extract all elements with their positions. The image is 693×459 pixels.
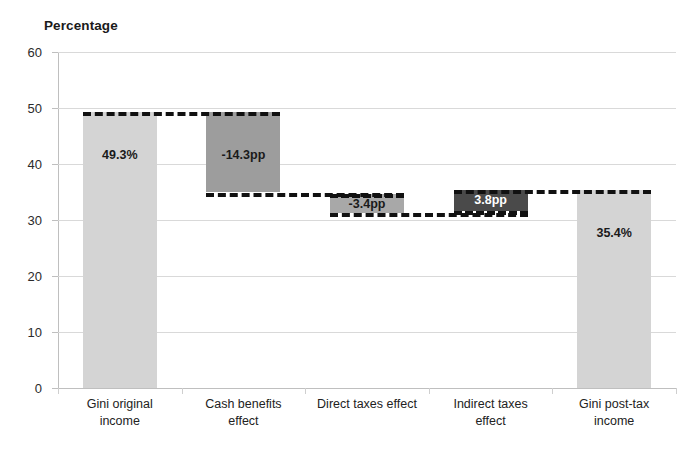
category-label-line: Cash benefits — [182, 396, 306, 413]
bar-label-cash-benefits-effect: -14.3pp — [188, 148, 298, 162]
category-label-1: Cash benefitseffect — [182, 396, 306, 430]
y-tick-label-30: 30 — [8, 213, 42, 228]
bar-label-gini-original-income: 49.3% — [65, 148, 175, 162]
category-label-line: income — [552, 413, 676, 430]
bar-label-gini-post-tax-income: 35.4% — [559, 226, 669, 240]
category-label-line: effect — [182, 413, 306, 430]
gridline-50 — [58, 108, 676, 109]
category-label-line: effect — [429, 413, 553, 430]
y-tick-label-10: 10 — [8, 325, 42, 340]
x-tick-mark-3 — [429, 388, 430, 394]
connector-35-4 — [454, 190, 652, 194]
category-label-line: Direct taxes effect — [305, 396, 429, 413]
x-tick-mark-4 — [552, 388, 553, 394]
waterfall-chart: Percentage 0102030405060 49.3%-14.3pp-3.… — [0, 0, 693, 459]
y-tick-label-60: 60 — [8, 45, 42, 60]
y-tick-label-40: 40 — [8, 157, 42, 172]
category-label-line: Gini post-tax — [552, 396, 676, 413]
y-axis-title: Percentage — [44, 18, 118, 33]
category-label-3: Indirect taxeseffect — [429, 396, 553, 430]
y-tick-label-50: 50 — [8, 101, 42, 116]
x-tick-mark-2 — [305, 388, 306, 394]
y-tick-label-20: 20 — [8, 269, 42, 284]
bar-label-indirect-taxes-effect: 3.8pp — [436, 193, 546, 207]
category-label-line: income — [58, 413, 182, 430]
x-axis-line — [58, 388, 676, 389]
category-label-line: Indirect taxes — [429, 396, 553, 413]
bar-gini-post-tax-income — [577, 190, 651, 388]
bar-label-direct-taxes-effect: -3.4pp — [312, 197, 422, 211]
x-tick-mark-5 — [676, 388, 677, 394]
category-label-2: Direct taxes effect — [305, 396, 429, 413]
gridline-60 — [58, 52, 676, 53]
connector-49-3 — [83, 112, 281, 116]
connector-cap-0 — [330, 194, 404, 198]
x-tick-mark-0 — [58, 388, 59, 394]
x-tick-mark-1 — [182, 388, 183, 394]
category-label-4: Gini post-taxincome — [552, 396, 676, 430]
plot-area: 49.3%-14.3pp-3.4pp3.8pp35.4% — [58, 52, 676, 388]
connector-cap-1 — [454, 211, 528, 215]
y-tick-label-0: 0 — [8, 381, 42, 396]
category-label-line: Gini original — [58, 396, 182, 413]
category-label-0: Gini originalincome — [58, 396, 182, 430]
